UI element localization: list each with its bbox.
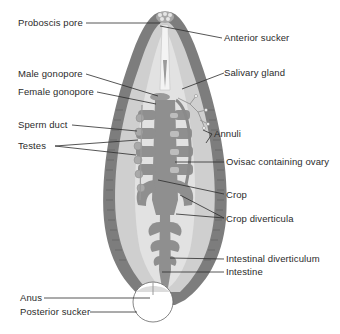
leech-body-illustration	[0, 0, 340, 334]
label-intestinal-diverticulum: Intestinal diverticulum	[226, 253, 320, 264]
label-annuli: Annuli	[214, 128, 241, 139]
label-salivary-gland: Salivary gland	[224, 67, 285, 78]
label-testes: Testes	[18, 140, 46, 151]
anterior-sucker-shape	[156, 11, 174, 23]
label-ovisac: Ovisac containing ovary	[226, 156, 329, 167]
leech-anatomy-diagram: Proboscis pore Male gonopore Female gono…	[0, 0, 340, 334]
label-posterior-sucker: Posterior sucker	[20, 306, 90, 317]
label-female-gonopore: Female gonopore	[18, 86, 94, 97]
label-intestine: Intestine	[226, 266, 263, 277]
label-proboscis-pore: Proboscis pore	[18, 17, 83, 28]
label-crop: Crop	[226, 189, 247, 200]
intestine-shape	[159, 214, 171, 288]
label-crop-diverticula: Crop diverticula	[226, 213, 294, 224]
label-anus: Anus	[20, 292, 42, 303]
label-male-gonopore: Male gonopore	[18, 68, 83, 79]
label-anterior-sucker: Anterior sucker	[224, 32, 289, 43]
label-sperm-duct: Sperm duct	[18, 119, 68, 130]
